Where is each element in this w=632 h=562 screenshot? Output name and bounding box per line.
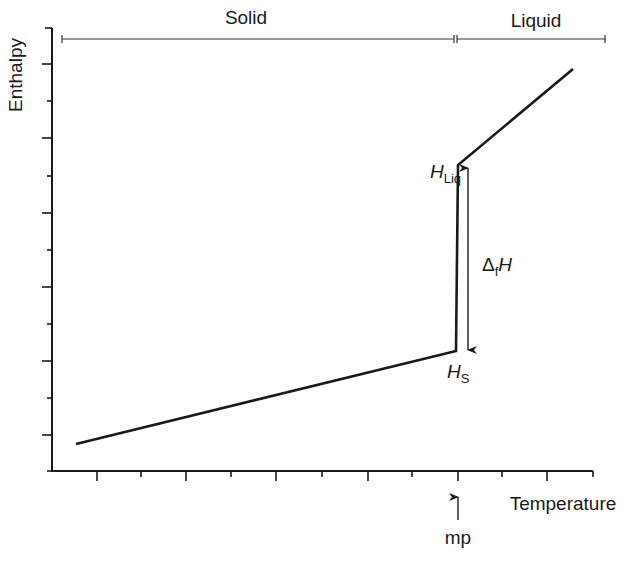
region-label-liquid: Liquid: [511, 10, 562, 31]
enthalpy-of-fusion-label: ΔfH: [482, 254, 512, 279]
enthalpy-temperature-chart: Solid Liquid Enthalpy Tem: [0, 0, 632, 562]
melting-point-label: mp: [445, 527, 471, 548]
h-liquid-label: HLiq: [430, 161, 461, 186]
axes: [51, 28, 593, 472]
y-axis-ticks: [42, 28, 52, 471]
region-label-solid: Solid: [225, 7, 267, 28]
x-axis-label: Temperature: [510, 493, 617, 514]
h-solid-label: HS: [447, 361, 470, 386]
x-axis-ticks: [97, 471, 593, 481]
y-axis-label: Enthalpy: [5, 38, 26, 112]
phase-bracket: [62, 35, 605, 43]
